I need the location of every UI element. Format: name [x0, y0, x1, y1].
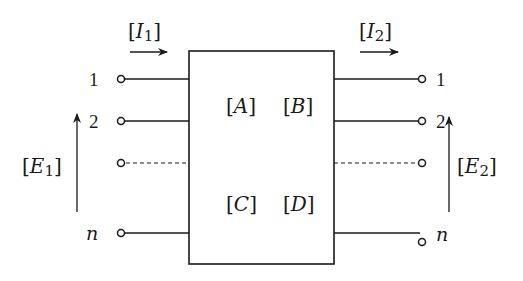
svg-text:[E1]: [E1] [22, 154, 62, 180]
svg-text:[D]: [D] [283, 192, 315, 216]
network-block [189, 51, 334, 264]
input-terminal-intermediate [118, 160, 190, 167]
matrix-label-a: [A] [226, 94, 256, 118]
n-port-network-diagram: [A] [B] [C] [D] [I1] 1 2 n [E1] [0, 0, 523, 281]
svg-text:n: n [86, 222, 98, 244]
output-voltage-label: [E2] [457, 154, 497, 180]
input-terminal-1: 1 [89, 69, 189, 90]
terminal-circle-icon [419, 160, 426, 167]
svg-text:1: 1 [436, 69, 446, 90]
svg-text:[C]: [C] [226, 192, 257, 216]
output-terminal-2: 2 [334, 111, 446, 132]
terminal-circle-icon [118, 230, 125, 237]
matrix-label-b: [B] [283, 94, 313, 118]
svg-text:[A]: [A] [226, 94, 256, 118]
svg-text:[I1]: [I1] [128, 19, 161, 45]
input-current-label: [I1] [128, 19, 161, 45]
input-voltage-label: [E1] [22, 154, 62, 180]
svg-text:n: n [436, 223, 448, 245]
svg-text:[E2]: [E2] [457, 154, 497, 180]
output-terminal-intermediate [334, 160, 426, 167]
terminal-circle-icon [419, 76, 426, 83]
svg-text:2: 2 [89, 111, 99, 132]
output-terminal-n: n [334, 223, 448, 246]
matrix-label-d: [D] [283, 192, 315, 216]
input-terminal-2: 2 [89, 111, 189, 132]
terminal-circle-icon [118, 118, 125, 125]
terminal-circle-icon [118, 160, 125, 167]
terminal-circle-icon [419, 118, 426, 125]
svg-text:2: 2 [436, 111, 446, 132]
output-current-label: [I2] [359, 19, 392, 45]
svg-text:1: 1 [89, 69, 99, 90]
svg-text:[B]: [B] [283, 94, 313, 118]
terminal-circle-icon [118, 76, 125, 83]
terminal-circle-icon [419, 239, 426, 246]
output-terminal-1: 1 [334, 69, 446, 90]
svg-text:[I2]: [I2] [359, 19, 392, 45]
matrix-label-c: [C] [226, 192, 257, 216]
input-terminal-n: n [86, 222, 189, 244]
